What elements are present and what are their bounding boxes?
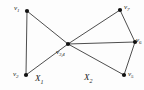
graph-edge — [68, 42, 135, 44]
vertex-label-subscript: 5 — [131, 74, 133, 79]
edge-layer — [26, 10, 135, 75]
vertex-label-v7: v7 — [124, 4, 129, 12]
region-label-X2: X2 — [84, 73, 93, 84]
graph-canvas — [0, 0, 144, 90]
region-label-subscript: 2 — [90, 78, 93, 84]
graph-vertex — [25, 9, 29, 13]
vertex-label-subscript: 6 — [139, 40, 141, 45]
vertex-label-subscript: 3,4 — [59, 52, 65, 57]
region-label-X1: X1 — [35, 74, 44, 85]
vertex-label-v1: v1 — [14, 5, 19, 13]
vertex-label-v5: v5 — [128, 71, 133, 79]
graph-edge — [26, 11, 27, 75]
vertex-label-v2: v2 — [13, 71, 18, 79]
vertex-label-v6: v6 — [136, 37, 141, 45]
vertex-label-subscript: 2 — [16, 74, 18, 79]
graph-edge — [68, 10, 120, 44]
graph-edge — [120, 10, 135, 42]
graph-vertex — [24, 73, 28, 77]
vertex-label-subscript: 1 — [17, 8, 19, 13]
graph-vertex — [118, 8, 122, 12]
vertex-label-subscript: 7 — [127, 7, 129, 12]
graph-vertex — [66, 42, 70, 46]
graph-figure: v1v2v3,4v5v6v7 X1X2 — [0, 0, 144, 90]
vertex-label-v34: v3,4 — [56, 49, 65, 57]
region-label-subscript: 1 — [41, 79, 44, 85]
graph-edge — [27, 11, 68, 44]
graph-vertex — [122, 73, 126, 77]
graph-edge — [68, 44, 124, 75]
